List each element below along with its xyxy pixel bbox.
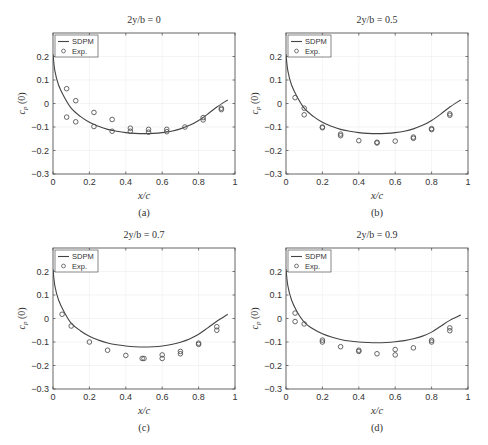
panel-caption: (a) [138, 207, 150, 219]
y-tick-label: −0.1 [264, 122, 282, 132]
y-tick-label: −0.3 [31, 169, 49, 179]
y-tick-label: −0.2 [264, 361, 282, 371]
x-tick-label: 0 [50, 392, 55, 402]
series-sdpm-line [53, 269, 228, 347]
series-sdpm-line [286, 269, 461, 343]
legend-label-exp: Exp. [72, 47, 87, 56]
x-tick-label: 0.4 [353, 392, 366, 402]
legend: SDPMExp. [55, 35, 98, 57]
y-tick-label: 0 [277, 99, 282, 109]
legend-label-exp: Exp. [72, 262, 87, 271]
legend-label-exp: Exp. [305, 47, 320, 56]
data-point [110, 117, 115, 122]
y-tick-label: −0.3 [264, 384, 282, 394]
y-tick-label: −0.2 [31, 146, 49, 156]
y-tick-label: 0 [44, 99, 49, 109]
y-tick-label: −0.1 [264, 337, 282, 347]
x-tick-label: 0.4 [120, 392, 133, 402]
y-axis-label: cp (0) [249, 307, 262, 329]
y-axis-label: cp (0) [16, 92, 29, 114]
legend: SDPMExp. [288, 250, 331, 272]
x-tick-label: 0.6 [156, 177, 169, 187]
y-tick-label: 0 [44, 314, 49, 324]
x-axis-label: x/c [137, 190, 151, 201]
y-tick-label: −0.1 [31, 122, 49, 132]
y-tick-label: −0.3 [264, 169, 282, 179]
data-point [105, 348, 110, 353]
y-tick-label: 0.1 [269, 290, 282, 300]
legend-label-sdpm: SDPM [72, 37, 94, 46]
legend-label-sdpm: SDPM [305, 37, 327, 46]
legend-label-sdpm: SDPM [72, 252, 94, 261]
x-tick-label: 0.8 [425, 392, 438, 402]
series-sdpm-line [286, 54, 461, 133]
y-axis: −0.3−0.2−0.100.10.2 [264, 267, 468, 395]
y-tick-label: 0.1 [36, 290, 49, 300]
x-tick-label: 0.6 [156, 392, 169, 402]
x-tick-label: 0.8 [425, 177, 438, 187]
figure: 00.20.40.60.81−0.3−0.2−0.100.10.22y/b = … [0, 0, 488, 445]
data-point [73, 98, 78, 103]
x-tick-label: 0.6 [389, 177, 402, 187]
panel-caption: (d) [371, 422, 384, 434]
chart-title: 2y/b = 0.9 [357, 229, 398, 240]
y-tick-label: −0.3 [31, 384, 49, 394]
x-tick-label: 0.4 [120, 177, 133, 187]
y-axis-label: cp (0) [16, 307, 29, 329]
y-tick-label: 0 [277, 314, 282, 324]
y-tick-label: 0.2 [36, 52, 49, 62]
data-point [69, 324, 74, 329]
data-point [448, 328, 453, 333]
legend: SDPMExp. [288, 35, 331, 57]
x-tick-label: 0.8 [192, 392, 205, 402]
data-point [338, 344, 343, 349]
chart-title: 2y/b = 0.5 [357, 14, 398, 25]
x-axis-label: x/c [370, 190, 384, 201]
x-tick-label: 0.2 [316, 177, 329, 187]
y-tick-label: 0.2 [269, 52, 282, 62]
chart-title: 2y/b = 0 [127, 14, 160, 25]
chart-panel-1: 00.20.40.60.81−0.3−0.2−0.100.10.22y/b = … [16, 14, 238, 219]
y-tick-label: −0.1 [31, 337, 49, 347]
x-tick-label: 0 [50, 177, 55, 187]
x-axis-label: x/c [370, 405, 384, 416]
y-axis-label: cp (0) [249, 92, 262, 114]
y-tick-label: 0.1 [269, 75, 282, 85]
legend: SDPMExp. [55, 250, 98, 272]
chart-panel-4: 00.20.40.60.81−0.3−0.2−0.100.10.22y/b = … [249, 229, 471, 434]
panel-caption: (c) [138, 422, 150, 434]
y-tick-label: −0.2 [31, 361, 49, 371]
data-point [293, 319, 298, 324]
y-axis: −0.3−0.2−0.100.10.2 [264, 52, 468, 180]
x-axis-label: x/c [137, 405, 151, 416]
data-point [375, 351, 380, 356]
y-tick-label: 0.1 [36, 75, 49, 85]
data-point [293, 95, 298, 100]
chart-title: 2y/b = 0.7 [124, 229, 165, 240]
legend-label-exp: Exp. [305, 262, 320, 271]
chart-panel-3: 00.20.40.60.81−0.3−0.2−0.100.10.22y/b = … [16, 229, 238, 434]
chart-panel-2: 00.20.40.60.81−0.3−0.2−0.100.10.22y/b = … [249, 14, 471, 219]
legend-label-sdpm: SDPM [305, 252, 327, 261]
x-tick-label: 0.2 [83, 177, 96, 187]
panel-caption: (b) [371, 207, 384, 219]
data-point [411, 346, 416, 351]
x-tick-label: 0.8 [192, 177, 205, 187]
x-tick-label: 1 [232, 392, 237, 402]
data-point [64, 86, 69, 91]
y-tick-label: 0.2 [36, 267, 49, 277]
x-tick-label: 0.2 [83, 392, 96, 402]
data-point [60, 312, 65, 317]
x-tick-label: 0.2 [316, 392, 329, 402]
y-tick-label: −0.2 [264, 146, 282, 156]
series-exp-markers [293, 95, 452, 145]
x-tick-label: 0.6 [389, 392, 402, 402]
x-tick-label: 0 [283, 177, 288, 187]
x-tick-label: 1 [465, 177, 470, 187]
data-point [92, 110, 97, 115]
x-tick-label: 1 [232, 177, 237, 187]
data-point [302, 112, 307, 117]
y-tick-label: 0.2 [269, 267, 282, 277]
data-point [64, 115, 69, 120]
data-point [293, 311, 298, 316]
